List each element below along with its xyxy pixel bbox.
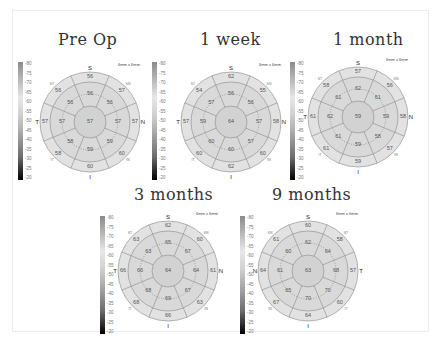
outer-sector-value: 57 — [350, 267, 356, 273]
outer-sector-value: 57 — [183, 118, 189, 124]
orientation-top-label: S — [88, 65, 92, 71]
colorbar — [100, 216, 105, 334]
inner-sector-value: 56 — [107, 99, 113, 105]
inner-sector-value: 70 — [325, 287, 331, 293]
inner-sector-value: 67 — [185, 248, 191, 254]
outer-sector-value: 60 — [119, 150, 125, 156]
colorbar-tick: -65 — [25, 91, 32, 96]
inner-sector-value: 67 — [185, 287, 191, 293]
inner-sector-value: 59 — [87, 146, 93, 152]
orientation-left-label: N — [253, 268, 257, 274]
quadrant-label: IT — [344, 307, 348, 311]
colorbar-tick: -20 — [159, 176, 166, 181]
outer-sector-value: 57 — [355, 68, 361, 74]
inner-sector-value: 63 — [145, 248, 151, 254]
inner-sector-value: 61 — [277, 267, 283, 273]
outer-sector-value: 57 — [387, 145, 393, 151]
center-value: 64 — [165, 267, 171, 273]
quadrant-label: SN — [204, 231, 209, 235]
colorbar-tick: -25 — [25, 167, 32, 172]
inner-sector-value: 70 — [305, 295, 311, 301]
inner-sector-value: 59 — [107, 138, 113, 144]
outer-sector-value: 64 — [260, 267, 266, 273]
inner-sector-value: 57 — [59, 118, 65, 124]
orientation-right-label: N — [409, 114, 413, 120]
colorbar-tick: -70 — [25, 81, 32, 86]
quadrant-label: ST — [191, 82, 196, 86]
orientation-right-label: N — [282, 119, 286, 125]
panel-title: 1 week — [200, 30, 261, 49]
inner-sector-value: 69 — [165, 295, 171, 301]
colorbar-tick: -30 — [159, 157, 166, 162]
center-value: 63 — [305, 267, 311, 273]
quadrant-label: ST — [128, 231, 133, 235]
outer-sector-value: 60 — [196, 150, 202, 156]
colorbar-tick: -20 — [25, 176, 32, 181]
orientation-top-label: S — [356, 60, 360, 66]
outer-sector-value: 63 — [133, 236, 139, 242]
panel-title: 1 month — [333, 30, 404, 49]
inner-sector-value: 56 — [228, 90, 234, 96]
inner-sector-value: 56 — [67, 99, 73, 105]
outer-sector-value: 61 — [310, 113, 316, 119]
colorbar-tick: -30 — [25, 157, 32, 162]
colorbar-tick: -75 — [25, 72, 32, 77]
colorbar-tick: -75 — [159, 72, 166, 77]
outer-sector-value: 56 — [87, 73, 93, 79]
orientation-right-label: N — [141, 119, 145, 125]
etdrs-grid: 6058576064676461626468707065616063SINTSN… — [253, 206, 363, 336]
outer-sector-value: 58 — [55, 150, 61, 156]
inner-sector-value: 59 — [383, 113, 389, 119]
colorbar-tick: -60 — [159, 100, 166, 105]
outer-sector-value: 62 — [228, 73, 234, 79]
etdrs-grid: 6260616366686663656764676968666364SITNST… — [113, 206, 223, 336]
orientation-bottom-label: I — [89, 174, 91, 180]
inner-sector-value: 60 — [208, 138, 214, 144]
inner-sector-value: 64 — [325, 248, 331, 254]
quadrant-label: IT — [191, 158, 195, 162]
colorbar-tick: -45 — [159, 129, 166, 134]
quadrant-label: IN — [267, 158, 271, 162]
quadrant-label: IT — [318, 153, 322, 157]
center-value: 64 — [228, 118, 234, 124]
orientation-left-label: T — [176, 119, 180, 125]
quadrant-label: SN — [394, 77, 399, 81]
colorbar-tick: -70 — [159, 81, 166, 86]
outer-sector-value: 60 — [197, 236, 203, 242]
outer-sector-value: 56 — [55, 87, 61, 93]
outer-sector-value: 58 — [337, 236, 343, 242]
outer-sector-value: 56 — [387, 82, 393, 88]
colorbar-tick: -50 — [25, 119, 32, 124]
inner-sector-value: 60 — [285, 248, 291, 254]
center-value: 57 — [87, 118, 93, 124]
outer-sector-value: 60 — [260, 150, 266, 156]
orientation-left-label: T — [303, 114, 307, 120]
orientation-right-label: T — [359, 268, 363, 274]
orientation-left-label: T — [113, 268, 117, 274]
colorbar-tick: -80 — [159, 62, 166, 67]
colorbar — [152, 62, 157, 180]
inner-sector-value: 60 — [228, 146, 234, 152]
inner-sector-value: 65 — [285, 287, 291, 293]
colorbar-tick: -55 — [25, 110, 32, 115]
outer-sector-value: 59 — [355, 158, 361, 164]
inner-sector-value: 57 — [208, 99, 214, 105]
outer-sector-value: 57 — [42, 118, 48, 124]
quadrant-label: IN — [394, 153, 398, 157]
quadrant-label: SN — [268, 231, 273, 235]
colorbar-tick: -25 — [159, 167, 166, 172]
quadrant-label: IN — [204, 307, 208, 311]
etdrs-grid: 5657576060585756565657595958575657SITNST… — [35, 57, 145, 187]
outer-sector-value: 58 — [273, 118, 279, 124]
orientation-top-label: S — [306, 214, 310, 220]
quadrant-label: ST — [318, 77, 323, 81]
colorbar-tick: -45 — [25, 129, 32, 134]
quadrant-label: ST — [50, 82, 55, 86]
inner-sector-value: 61 — [335, 94, 341, 100]
orientation-bottom-label: I — [307, 323, 309, 329]
inner-sector-value: 68 — [333, 267, 339, 273]
etdrs-grid: 6255586062605754565657576060595764SITNST… — [176, 57, 286, 187]
etdrs-grid: 5756585759616158626159585961626159SITNST… — [303, 52, 413, 182]
inner-sector-value: 61 — [375, 94, 381, 100]
inner-sector-value: 57 — [248, 138, 254, 144]
